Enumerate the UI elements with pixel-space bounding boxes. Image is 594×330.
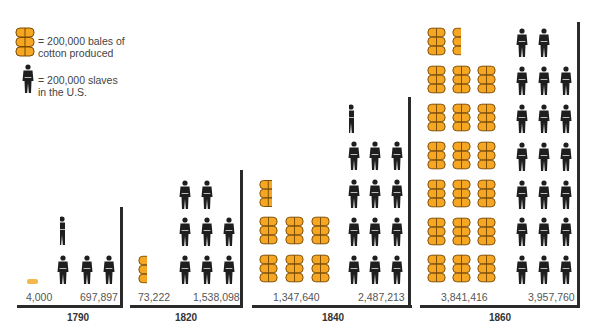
person-icon bbox=[390, 255, 404, 285]
cotton-bale-icon bbox=[452, 103, 471, 132]
cotton-bale-icon bbox=[427, 27, 446, 56]
cotton-bale-icon bbox=[477, 103, 496, 132]
cotton-value-1840: 1,347,640 bbox=[273, 291, 320, 303]
person-icon bbox=[390, 141, 404, 171]
cotton-bale-icon bbox=[311, 254, 330, 283]
person-fraction-icon bbox=[349, 104, 354, 134]
cotton-bale-icon bbox=[427, 254, 446, 283]
person-icon bbox=[178, 217, 192, 247]
person-icon bbox=[390, 217, 404, 247]
axis-baseline-1790 bbox=[17, 305, 123, 308]
person-icon bbox=[347, 217, 361, 247]
year-label-1820: 1820 bbox=[156, 312, 216, 323]
legend-cotton-bale-icon bbox=[15, 27, 35, 57]
person-icon bbox=[222, 255, 236, 285]
axis-baseline-1860 bbox=[420, 305, 580, 308]
person-icon bbox=[559, 180, 573, 210]
legend-slave-line2: in the U.S. bbox=[38, 86, 118, 98]
person-icon bbox=[200, 217, 214, 247]
axis-baseline-1820 bbox=[130, 305, 243, 308]
slaves-value-1820: 1,538,098 bbox=[193, 291, 240, 303]
legend-cotton-line2: cotton produced bbox=[38, 47, 125, 59]
person-icon bbox=[368, 179, 382, 209]
cotton-bale-icon bbox=[427, 217, 446, 246]
person-icon bbox=[222, 217, 236, 247]
person-icon bbox=[515, 104, 529, 134]
legend-slave-text: = 200,000 slaves in the U.S. bbox=[38, 74, 118, 98]
cotton-bale-icon bbox=[427, 103, 446, 132]
cotton-bale-fraction-icon bbox=[27, 279, 38, 284]
person-icon bbox=[537, 142, 551, 172]
person-icon bbox=[559, 142, 573, 172]
person-icon bbox=[368, 217, 382, 247]
person-icon bbox=[347, 179, 361, 209]
year-label-1860: 1860 bbox=[470, 312, 530, 323]
person-icon bbox=[515, 66, 529, 96]
person-icon bbox=[347, 141, 361, 171]
cotton-value-1790: 4,000 bbox=[26, 291, 52, 303]
person-icon bbox=[559, 217, 573, 247]
cotton-bale-icon bbox=[452, 65, 471, 94]
axis-baseline-1840 bbox=[252, 305, 412, 308]
axis-divider-1790 bbox=[120, 207, 123, 308]
slaves-value-1790: 697,897 bbox=[80, 291, 118, 303]
cotton-bale-icon bbox=[477, 254, 496, 283]
legend-cotton-text: = 200,000 bales of cotton produced bbox=[38, 35, 125, 59]
person-icon bbox=[537, 217, 551, 247]
person-icon bbox=[537, 104, 551, 134]
person-icon bbox=[515, 180, 529, 210]
cotton-value-1820: 73,222 bbox=[138, 291, 170, 303]
cotton-bale-fraction-icon bbox=[259, 179, 272, 208]
axis-divider-1860 bbox=[577, 22, 580, 308]
person-icon bbox=[178, 255, 192, 285]
person-icon bbox=[537, 255, 551, 285]
person-icon bbox=[80, 255, 94, 285]
person-icon bbox=[56, 255, 70, 285]
legend-slave-line1: = 200,000 slaves bbox=[38, 74, 118, 86]
cotton-bale-icon bbox=[477, 179, 496, 208]
cotton-bale-icon bbox=[452, 254, 471, 283]
cotton-bale-fraction-icon bbox=[452, 27, 461, 56]
legend-person-icon bbox=[21, 64, 35, 94]
cotton-bale-icon bbox=[427, 141, 446, 170]
person-icon bbox=[515, 142, 529, 172]
legend-cotton-line1: = 200,000 bales of bbox=[38, 35, 125, 47]
cotton-bale-icon bbox=[452, 141, 471, 170]
person-icon bbox=[515, 255, 529, 285]
axis-divider-1840 bbox=[408, 97, 411, 308]
person-icon bbox=[559, 66, 573, 96]
cotton-bale-icon bbox=[452, 179, 471, 208]
person-icon bbox=[515, 217, 529, 247]
cotton-bale-icon bbox=[477, 65, 496, 94]
person-icon bbox=[102, 255, 116, 285]
cotton-bale-icon bbox=[452, 217, 471, 246]
person-icon bbox=[537, 28, 551, 58]
person-icon bbox=[537, 180, 551, 210]
person-icon bbox=[368, 141, 382, 171]
slaves-value-1860: 3,957,760 bbox=[528, 291, 575, 303]
cotton-bale-icon bbox=[311, 216, 330, 245]
person-icon bbox=[537, 66, 551, 96]
person-icon bbox=[559, 104, 573, 134]
cotton-bale-icon bbox=[285, 216, 304, 245]
cotton-bale-icon bbox=[427, 65, 446, 94]
cotton-bale-icon bbox=[477, 141, 496, 170]
year-label-1840: 1840 bbox=[303, 312, 363, 323]
person-icon bbox=[368, 255, 382, 285]
cotton-bale-icon bbox=[477, 217, 496, 246]
slaves-value-1840: 2,487,213 bbox=[358, 291, 405, 303]
person-icon bbox=[347, 255, 361, 285]
person-icon bbox=[559, 255, 573, 285]
person-icon bbox=[200, 180, 214, 210]
person-fraction-icon bbox=[60, 216, 65, 246]
cotton-value-1860: 3,841,416 bbox=[441, 291, 488, 303]
person-icon bbox=[390, 179, 404, 209]
person-icon bbox=[200, 255, 214, 285]
person-icon bbox=[515, 28, 529, 58]
cotton-bale-icon bbox=[285, 254, 304, 283]
cotton-bale-icon bbox=[259, 216, 278, 245]
axis-divider-1820 bbox=[240, 170, 243, 308]
person-icon bbox=[178, 180, 192, 210]
cotton-bale-icon bbox=[427, 179, 446, 208]
cotton-bale-fraction-icon bbox=[138, 255, 147, 284]
